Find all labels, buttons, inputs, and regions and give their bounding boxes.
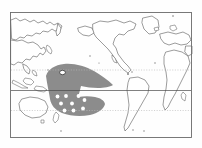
distribution-map-figure	[0, 0, 202, 148]
island-speck-caribbean-2	[131, 71, 132, 72]
coastline-europe	[160, 32, 191, 45]
sampling-site-marker	[63, 109, 67, 113]
sampling-site-marker	[64, 94, 68, 98]
island-speck-south-atlantic	[143, 130, 144, 131]
island-speck-pacific-3	[98, 62, 99, 63]
island-speck-south-pacific	[60, 130, 61, 131]
coastline-iceland	[154, 27, 159, 31]
island-speck-caribbean-1	[127, 73, 129, 75]
sampling-site-marker	[83, 98, 87, 102]
sampling-site-marker	[77, 94, 81, 98]
island-speck-pacific-4	[154, 62, 155, 63]
sampling-site-marker	[56, 95, 60, 99]
coastline-tasmania	[41, 120, 44, 123]
highlighted-site-marker	[60, 70, 66, 74]
sampling-site-marker	[81, 107, 85, 111]
island-speck-aleutian	[172, 15, 174, 17]
sampling-site-marker	[72, 109, 76, 113]
sampling-site-marker	[59, 102, 63, 106]
world-map-canvas	[0, 0, 202, 148]
sampling-site-marker	[70, 102, 74, 106]
island-speck-pacific-2	[89, 55, 90, 56]
island-speck-falkland	[132, 129, 133, 130]
